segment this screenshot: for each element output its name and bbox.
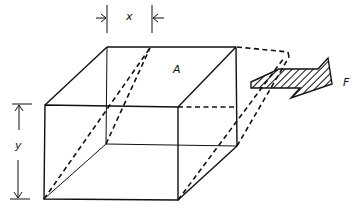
force-arrow <box>251 58 332 98</box>
shear-diagram: x y A F <box>0 0 355 208</box>
area-label: A <box>172 63 181 76</box>
original-cube <box>44 47 237 200</box>
force-label: F <box>343 76 350 89</box>
y-label: y <box>14 139 22 152</box>
sheared-cube <box>44 47 289 200</box>
x-label: x <box>125 10 133 23</box>
